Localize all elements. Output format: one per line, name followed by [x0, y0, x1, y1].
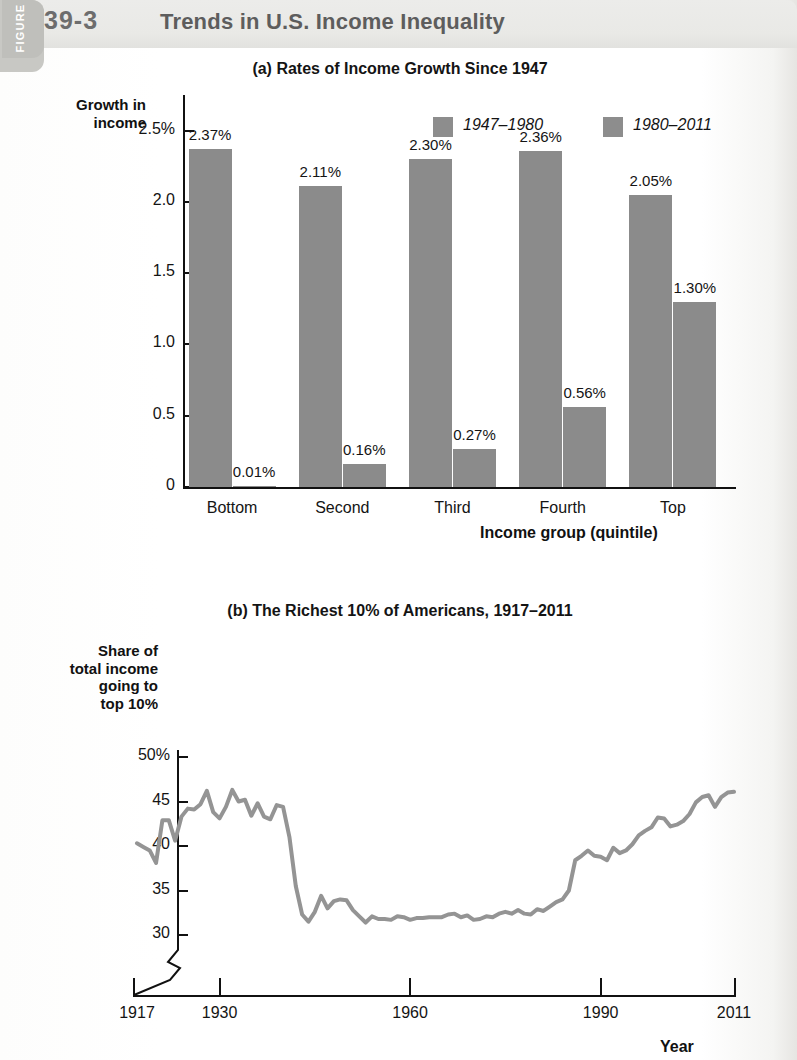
- bar-third-1980-2011: [453, 449, 496, 487]
- textbook-figure-page: FIGURE 39-3 Trends in U.S. Income Inequa…: [0, 0, 797, 1060]
- bar-top-1947-1980: [629, 195, 672, 487]
- legend-label-1980-2011: 1980–2011: [633, 116, 712, 134]
- bar-second-1980-2011: [343, 464, 386, 487]
- bar-value-label: 2.36%: [506, 128, 576, 145]
- figure-title: Trends in U.S. Income Inequality: [160, 9, 505, 35]
- bar-value-label: 1.30%: [660, 279, 730, 296]
- bar-bottom-1947-1980: [189, 149, 232, 487]
- panel-a-category-label: Top: [618, 499, 728, 517]
- bar-value-label: 2.30%: [396, 136, 466, 153]
- legend-swatch-1980-2011: [603, 117, 623, 137]
- panel-a-y-tick-label: 1.0: [75, 333, 175, 351]
- panel-b-series-line: [0, 590, 797, 1060]
- panel-a-category-label: Second: [287, 499, 397, 517]
- figure-number: 39-3: [44, 6, 98, 35]
- panel-b-data-line: [137, 790, 734, 923]
- panel-a-bar-chart: (a) Rates of Income Growth Since 1947 Gr…: [0, 48, 797, 568]
- panel-a-y-tick-label: 0.5: [75, 405, 175, 423]
- panel-a-y-tick-label: 2.5%: [75, 120, 175, 138]
- panel-a-y-axis: [183, 95, 185, 488]
- panel-a-y-tick-label: 1.5: [75, 262, 175, 280]
- panel-a-x-axis-caption: Income group (quintile): [480, 524, 658, 542]
- bar-value-label: 0.27%: [440, 426, 510, 443]
- panel-a-x-axis: [183, 487, 736, 489]
- bar-bottom-1980-2011: [233, 486, 276, 487]
- bar-value-label: 2.37%: [175, 126, 245, 143]
- bar-fourth-1980-2011: [563, 407, 606, 487]
- legend-swatch-1947-1980: [433, 117, 453, 137]
- bar-top-1980-2011: [673, 302, 716, 487]
- panel-b-line-chart: (b) The Richest 10% of Americans, 1917–2…: [0, 590, 797, 1060]
- bar-fourth-1947-1980: [519, 151, 562, 487]
- bar-value-label: 0.01%: [219, 463, 289, 480]
- bar-value-label: 0.16%: [329, 441, 399, 458]
- panel-b-x-axis-caption: Year: [660, 1038, 694, 1056]
- bar-value-label: 2.05%: [616, 172, 686, 189]
- bar-value-label: 2.11%: [285, 163, 355, 180]
- panel-a-y-tick-label: 0: [75, 476, 175, 494]
- panel-a-category-label: Bottom: [177, 499, 287, 517]
- panel-a-category-label: Third: [398, 499, 508, 517]
- bar-value-label: 0.56%: [550, 384, 620, 401]
- panel-a-y-tick-label: 2.0: [75, 191, 175, 209]
- panel-a-category-label: Fourth: [508, 499, 618, 517]
